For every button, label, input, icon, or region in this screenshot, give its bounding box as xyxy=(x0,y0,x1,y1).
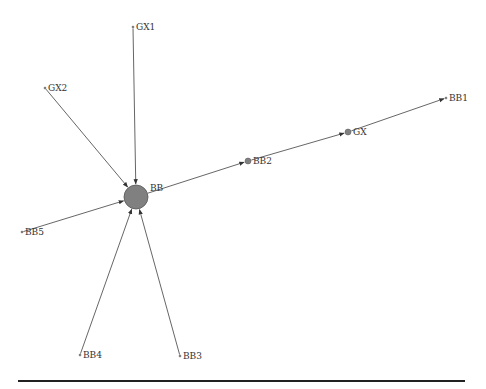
node-circle-icon xyxy=(445,97,447,99)
node-bb2: BB2 xyxy=(245,156,272,166)
node-label: BB xyxy=(150,183,164,193)
node-label: GX1 xyxy=(136,22,155,32)
node-circle-icon xyxy=(124,185,148,209)
node-label: BB4 xyxy=(83,350,102,360)
node-bb1: BB1 xyxy=(445,93,468,103)
edge-gx1-to-bb xyxy=(133,28,136,184)
node-circle-icon xyxy=(44,87,46,89)
node-label: BB3 xyxy=(183,351,202,361)
node-label: GX2 xyxy=(48,83,67,93)
node-bb: BB xyxy=(124,183,164,209)
node-circle-icon xyxy=(345,129,351,135)
edge-gx2-to-bb xyxy=(46,89,128,187)
node-bb4: BB4 xyxy=(79,350,102,360)
node-label: BB2 xyxy=(253,156,272,166)
node-circle-icon xyxy=(21,231,23,233)
node-gx: GX xyxy=(345,127,367,137)
node-bb3: BB3 xyxy=(179,351,202,361)
bottom-rule xyxy=(18,380,465,382)
edge-bb4-to-bb xyxy=(81,209,132,353)
node-circle-icon xyxy=(179,355,181,357)
node-gx2: GX2 xyxy=(44,83,67,93)
node-label: BB1 xyxy=(449,93,468,103)
node-circle-icon xyxy=(245,158,251,164)
edge-bb3-to-bb xyxy=(139,210,179,355)
network-diagram: BBGX1GX2BB1GXBB2BB5BB4BB3 xyxy=(0,0,486,389)
edges-layer xyxy=(23,28,444,354)
node-circle-icon xyxy=(79,354,81,356)
node-gx1: GX1 xyxy=(132,22,155,32)
node-label: BB5 xyxy=(25,227,44,237)
nodes-layer: BBGX1GX2BB1GXBB2BB5BB4BB3 xyxy=(21,22,468,361)
node-circle-icon xyxy=(132,26,134,28)
node-label: GX xyxy=(353,127,367,137)
node-bb5: BB5 xyxy=(21,227,44,237)
